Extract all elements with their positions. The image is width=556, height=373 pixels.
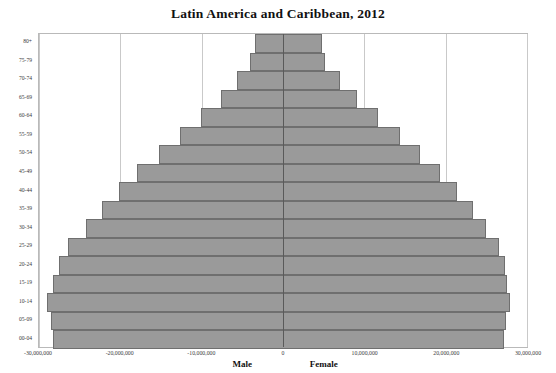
- x-tick-label-5: 20,000,000: [401, 350, 491, 356]
- y-axis-label-75-79: 75-79: [0, 58, 32, 64]
- y-axis-label-45-49: 45-49: [0, 169, 32, 175]
- bar-female-75-79: [283, 53, 325, 72]
- bar-male-40-44: [119, 182, 283, 201]
- y-axis-label-10-14: 10-14: [0, 299, 32, 305]
- zero-axis-line: [283, 34, 284, 347]
- bar-male-45-49: [137, 164, 283, 183]
- bar-male-65-69: [221, 90, 283, 109]
- bar-female-80+: [283, 34, 322, 53]
- x-tick-label-4: 10,000,000: [320, 350, 410, 356]
- y-axis-age-labels: 80+75-7970-7465-6960-6455-5950-5445-4940…: [0, 33, 36, 348]
- bar-male-55-59: [180, 127, 283, 146]
- y-axis-label-05-09: 05-09: [0, 317, 32, 323]
- y-axis-label-15-19: 15-19: [0, 280, 32, 286]
- x-tick-label-2: -10,000,000: [156, 350, 246, 356]
- y-axis-label-35-39: 35-39: [0, 206, 32, 212]
- y-axis-label-55-59: 55-59: [0, 132, 32, 138]
- bar-female-25-29: [283, 238, 499, 257]
- y-axis-label-70-74: 70-74: [0, 76, 32, 82]
- bar-female-00-04: [283, 330, 504, 349]
- bar-female-15-19: [283, 275, 507, 294]
- bar-male-50-54: [159, 145, 283, 164]
- bar-female-40-44: [283, 182, 457, 201]
- axis-label-female: Female: [284, 359, 364, 369]
- bar-female-45-49: [283, 164, 440, 183]
- plot-area: [38, 33, 528, 348]
- y-axis-label-00-04: 00-04: [0, 336, 32, 342]
- x-tick-label-6: 30,000,000: [483, 350, 556, 356]
- gridline-6: [527, 34, 528, 347]
- population-pyramid-chart: Latin America and Caribbean, 2012 80+75-…: [0, 0, 556, 373]
- y-axis-label-25-29: 25-29: [0, 243, 32, 249]
- bar-female-10-14: [283, 293, 510, 312]
- bar-female-20-24: [283, 256, 505, 275]
- bar-male-25-29: [68, 238, 283, 257]
- bar-male-75-79: [250, 53, 283, 72]
- x-tick-label-0: -30,000,000: [0, 350, 83, 356]
- bar-female-60-64: [283, 108, 378, 127]
- axis-label-male: Male: [202, 359, 282, 369]
- sex-axis-labels: MaleFemale: [0, 359, 556, 373]
- bar-female-50-54: [283, 145, 420, 164]
- y-axis-label-40-44: 40-44: [0, 188, 32, 194]
- bar-male-80+: [255, 34, 283, 53]
- x-tick-label-1: -20,000,000: [75, 350, 165, 356]
- bar-male-15-19: [53, 275, 283, 294]
- bar-male-20-24: [59, 256, 283, 275]
- bar-male-30-34: [86, 219, 283, 238]
- bar-male-00-04: [53, 330, 283, 349]
- bar-female-35-39: [283, 201, 473, 220]
- y-axis-label-30-34: 30-34: [0, 225, 32, 231]
- bar-male-60-64: [201, 108, 283, 127]
- bar-female-70-74: [283, 71, 340, 90]
- y-axis-label-60-64: 60-64: [0, 113, 32, 119]
- y-axis-label-80+: 80+: [0, 39, 32, 45]
- bar-female-55-59: [283, 127, 400, 146]
- bar-male-70-74: [237, 71, 283, 90]
- y-axis-label-20-24: 20-24: [0, 262, 32, 268]
- y-axis-label-50-54: 50-54: [0, 150, 32, 156]
- bar-male-05-09: [51, 312, 283, 331]
- x-tick-label-3: 0: [238, 350, 328, 356]
- bar-male-10-14: [47, 293, 283, 312]
- y-axis-label-65-69: 65-69: [0, 95, 32, 101]
- bar-female-65-69: [283, 90, 357, 109]
- bar-male-35-39: [102, 201, 283, 220]
- chart-title: Latin America and Caribbean, 2012: [0, 6, 556, 22]
- bar-female-30-34: [283, 219, 486, 238]
- bar-female-05-09: [283, 312, 506, 331]
